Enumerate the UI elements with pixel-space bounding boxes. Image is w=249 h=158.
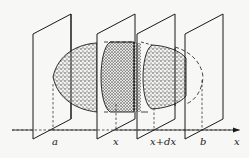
- label-b: b: [200, 136, 206, 147]
- plane-b: [185, 14, 223, 139]
- axis-label-x: x: [234, 136, 240, 147]
- label-x-plus-dx: x+dx: [150, 136, 176, 147]
- label-a: a: [52, 136, 58, 147]
- cross-section-x-plus-dx: [143, 45, 186, 109]
- slab-dx: [135, 43, 141, 112]
- volume-by-slicing-diagram: a x x+dx b x: [0, 0, 249, 158]
- cross-section-x: [101, 42, 134, 112]
- label-x: x: [113, 136, 119, 147]
